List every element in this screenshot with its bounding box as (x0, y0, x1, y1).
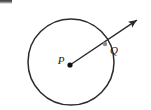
point-p-marker (67, 62, 72, 67)
circle-outline (28, 19, 114, 105)
point-q-label: Q (110, 44, 118, 56)
circle-ray-diagram: P Q (0, 0, 151, 110)
point-q-marker (103, 42, 107, 46)
point-p-label: P (57, 54, 65, 66)
geometry-figure-canvas: P Q (0, 0, 151, 110)
